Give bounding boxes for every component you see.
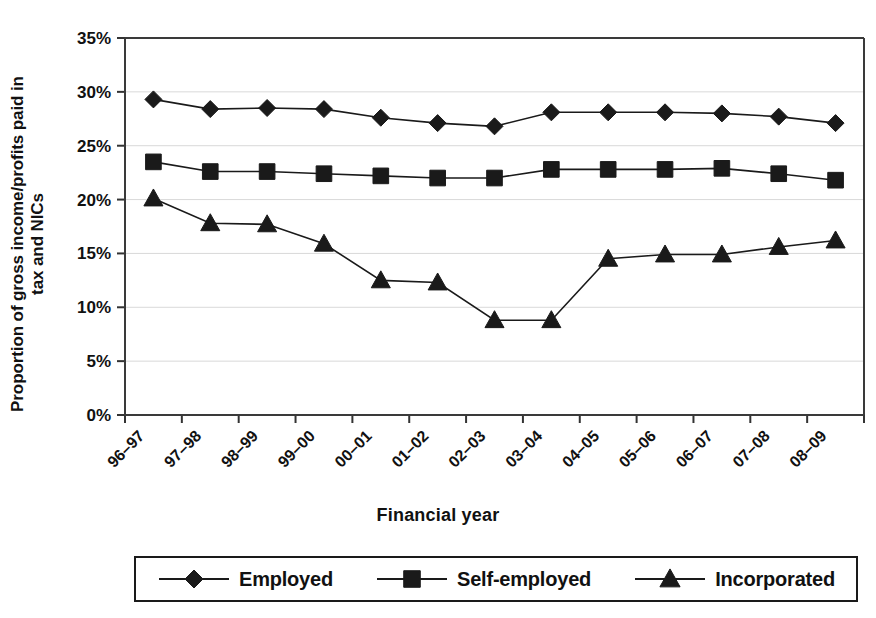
x-axis-tick-label: 04–05 — [559, 427, 603, 471]
data-point-marker — [485, 311, 504, 328]
data-point-marker — [827, 115, 844, 132]
data-point-marker — [202, 101, 219, 118]
y-axis-tick-label: 10% — [77, 298, 111, 317]
data-point-marker — [258, 215, 277, 232]
data-point-marker — [146, 154, 162, 170]
x-axis-tick-label: 05–06 — [616, 427, 660, 471]
data-point-marker — [543, 104, 560, 121]
legend-item-label: Employed — [239, 568, 333, 591]
line-chart-figure: Proportion of gross income/profits paid … — [0, 0, 876, 618]
data-point-marker — [144, 189, 163, 206]
data-point-marker — [371, 271, 390, 288]
data-point-marker — [487, 170, 503, 186]
y-axis-tick-label: 30% — [77, 83, 111, 102]
y-axis-tick-label: 15% — [77, 244, 111, 263]
data-point-marker — [429, 115, 446, 132]
data-point-marker — [544, 162, 560, 178]
data-point-marker — [713, 105, 730, 122]
data-point-marker — [600, 104, 617, 121]
y-axis-ticks-group: 0%5%10%15%20%25%30%35% — [77, 29, 125, 425]
data-point-marker — [770, 108, 787, 125]
data-point-marker — [373, 168, 389, 184]
plot-frame — [125, 38, 864, 415]
x-axis-tick-label: 02–03 — [445, 427, 489, 471]
legend-item-label: Self-employed — [457, 568, 591, 591]
x-axis-tick-label: 96–97 — [104, 427, 148, 471]
data-point-marker — [828, 172, 844, 188]
data-point-marker — [201, 214, 220, 231]
data-point-marker — [826, 231, 845, 248]
data-point-marker — [430, 170, 446, 186]
legend-marker-diamond-icon — [157, 566, 231, 592]
data-point-marker — [771, 166, 787, 182]
data-point-marker — [714, 161, 730, 177]
x-axis-tick-labels-group: 96–9797–9898–9999–0000–0101–0202–0303–04… — [104, 427, 830, 471]
x-axis-tick-label: 06–07 — [673, 427, 717, 471]
series-line — [153, 198, 835, 320]
series-self-employed — [146, 154, 844, 188]
y-axis-tick-label: 0% — [86, 406, 111, 425]
legend-marker-square-icon — [375, 566, 449, 592]
legend-item-employed[interactable]: Employed — [157, 566, 333, 592]
x-axis-ticks-group — [125, 415, 864, 423]
series-layer — [144, 91, 845, 328]
data-point-marker — [600, 162, 616, 178]
data-point-marker — [315, 101, 332, 118]
data-point-marker — [202, 164, 218, 180]
series-employed — [145, 91, 844, 135]
x-axis-tick-label: 08–09 — [786, 427, 830, 471]
x-axis-tick-label: 01–02 — [388, 427, 432, 471]
x-axis-tick-label: 07–08 — [729, 427, 773, 471]
data-point-marker — [259, 164, 275, 180]
data-point-marker — [657, 162, 673, 178]
x-axis-title: Financial year — [0, 505, 876, 526]
y-axis-tick-label: 5% — [86, 352, 111, 371]
x-axis-tick-label: 97–98 — [161, 427, 205, 471]
data-point-marker — [657, 104, 674, 121]
data-point-marker — [259, 100, 276, 117]
x-axis-tick-label: 99–00 — [275, 427, 319, 471]
x-axis-tick-label: 00–01 — [331, 427, 375, 471]
x-axis-tick-label: 98–99 — [218, 427, 262, 471]
legend-item-incorporated[interactable]: Incorporated — [633, 566, 835, 592]
y-axis-tick-label: 20% — [77, 191, 111, 210]
plot-area: 0%5%10%15%20%25%30%35% 96–9797–9898–9999… — [0, 0, 876, 500]
x-axis-tick-label: 03–04 — [502, 427, 546, 471]
data-point-marker — [316, 166, 332, 182]
data-point-marker — [372, 109, 389, 126]
legend-marker-triangle-icon — [633, 566, 707, 592]
chart-legend: EmployedSelf-employedIncorporated — [134, 556, 858, 602]
data-point-marker — [314, 234, 333, 251]
legend-item-self-employed[interactable]: Self-employed — [375, 566, 591, 592]
data-point-marker — [486, 118, 503, 135]
legend-item-label: Incorporated — [715, 568, 835, 591]
y-axis-tick-label: 25% — [77, 137, 111, 156]
data-point-marker — [145, 91, 162, 108]
y-axis-tick-label: 35% — [77, 29, 111, 48]
